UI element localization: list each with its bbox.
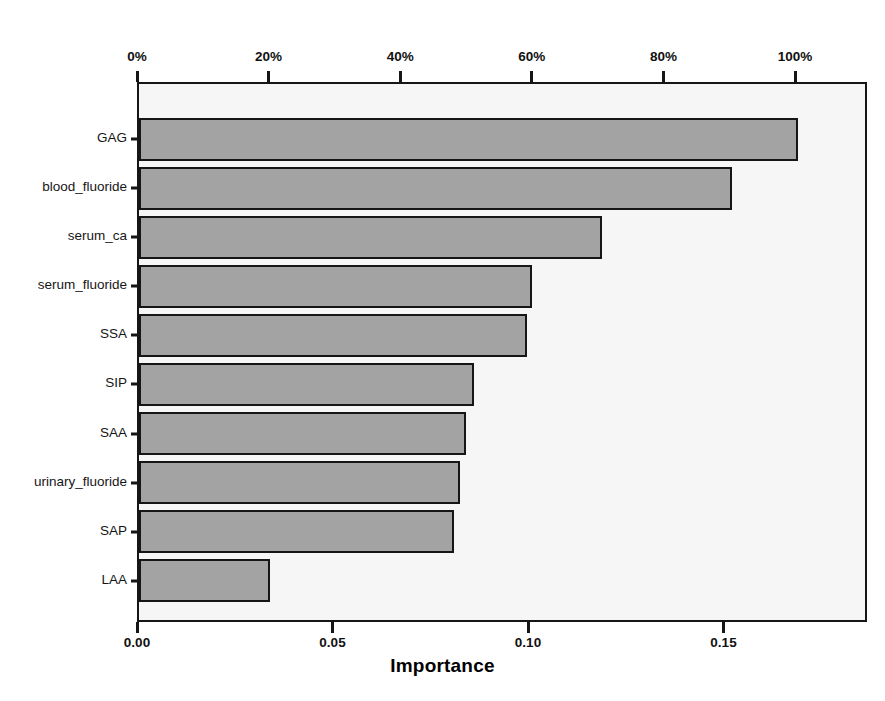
category-axis-tick — [131, 285, 139, 288]
category-axis-tick — [131, 383, 139, 386]
category-label: blood_fluoride — [42, 179, 127, 194]
bottom-axis-tick-label: 0.15 — [710, 635, 736, 650]
top-axis-tick — [794, 71, 797, 82]
category-label: serum_ca — [68, 228, 127, 243]
category-label: SSA — [100, 326, 127, 341]
category-label: GAG — [97, 130, 127, 145]
bottom-axis-tick — [331, 622, 334, 633]
bar — [139, 510, 454, 553]
top-axis-tick-label: 80% — [650, 49, 677, 64]
top-axis-tick-label: 0% — [127, 49, 147, 64]
bar — [139, 412, 466, 455]
bar — [139, 363, 474, 406]
category-axis-tick — [131, 138, 139, 141]
category-label: LAA — [101, 571, 127, 586]
bar — [139, 118, 798, 161]
category-axis-tick — [131, 334, 139, 337]
bottom-axis-tick — [722, 622, 725, 633]
bottom-axis-tick-label: 0.10 — [515, 635, 541, 650]
category-axis-tick — [131, 579, 139, 582]
bar — [139, 167, 732, 210]
top-axis-tick — [267, 71, 270, 82]
category-axis-tick — [131, 432, 139, 435]
category-axis-tick — [131, 187, 139, 190]
category-axis-tick — [131, 236, 139, 239]
category-label: SAA — [100, 424, 127, 439]
bottom-axis-tick — [527, 622, 530, 633]
top-axis-tick — [399, 71, 402, 82]
chart-figure: 0%20%40%60%80%100% 0.000.050.100.15 Impo… — [0, 0, 885, 701]
bar — [139, 265, 532, 308]
bottom-axis-title: Importance — [0, 655, 885, 677]
bottom-axis-tick-label: 0.05 — [319, 635, 345, 650]
plot-area — [137, 82, 867, 622]
top-axis-tick-label: 20% — [255, 49, 282, 64]
top-axis-tick — [662, 71, 665, 82]
category-label: serum_fluoride — [38, 277, 127, 292]
top-axis-tick-label: 40% — [387, 49, 414, 64]
category-label: urinary_fluoride — [34, 473, 127, 488]
top-axis-tick-label: 60% — [518, 49, 545, 64]
bar — [139, 461, 460, 504]
top-axis-tick — [136, 71, 139, 82]
top-axis-tick-label: 100% — [778, 49, 813, 64]
bar — [139, 216, 602, 259]
category-label: SAP — [100, 522, 127, 537]
bar — [139, 559, 270, 602]
bottom-axis-tick — [136, 622, 139, 633]
top-axis-tick — [530, 71, 533, 82]
category-axis-tick — [131, 481, 139, 484]
category-axis-tick — [131, 530, 139, 533]
bar — [139, 314, 527, 357]
top-axis: 0%20%40%60%80%100% — [0, 0, 885, 82]
bottom-axis-tick-label: 0.00 — [124, 635, 150, 650]
category-label: SIP — [105, 375, 127, 390]
